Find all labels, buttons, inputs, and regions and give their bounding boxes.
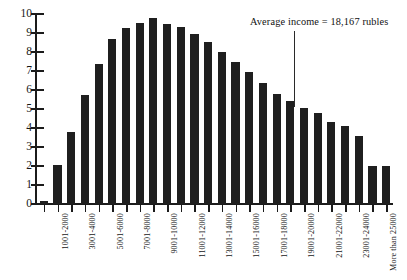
x-axis-tick — [126, 205, 128, 212]
y-axis-tick-label: 1 — [10, 179, 32, 191]
bar — [163, 24, 171, 205]
x-axis-tick-label: 1001-2000 — [61, 213, 70, 249]
bar — [382, 166, 390, 204]
x-axis-tick — [153, 205, 155, 212]
x-axis-tick — [194, 205, 196, 212]
x-axis-tick-label: More than 25000 — [389, 213, 398, 271]
x-axis-tick — [222, 205, 224, 212]
x-axis-tick — [277, 205, 279, 212]
y-axis-tick-label: 0 — [10, 198, 32, 210]
x-axis-tick — [263, 205, 265, 212]
bar — [368, 166, 376, 204]
bar — [231, 62, 239, 204]
x-axis-tick — [112, 205, 114, 212]
bar — [341, 126, 349, 204]
x-axis-tick-label: 3001-4000 — [88, 213, 97, 249]
bar — [136, 23, 144, 204]
x-axis-tick — [359, 205, 361, 212]
x-axis-tick-label: 9001-10000 — [170, 213, 179, 254]
bar — [204, 42, 212, 204]
bar — [108, 39, 116, 204]
x-axis-tick — [85, 205, 87, 212]
bar — [177, 27, 185, 204]
average-income-pointer-line — [294, 31, 295, 107]
bar — [95, 64, 103, 204]
bar-series — [37, 13, 393, 204]
x-axis-tick-label: 13001-14000 — [225, 213, 234, 258]
x-axis-tick — [290, 205, 292, 212]
bar — [245, 72, 253, 204]
bar — [327, 122, 335, 204]
y-axis-tick-label: 10 — [10, 8, 32, 20]
bar — [355, 136, 363, 204]
bar — [259, 83, 267, 204]
x-axis-tick — [345, 205, 347, 212]
bar — [149, 18, 157, 204]
chart-figure: 012345678910 1001-20003001-40005001-6000… — [0, 0, 407, 280]
bar — [273, 94, 281, 204]
bar — [67, 132, 75, 204]
x-axis-tick — [44, 205, 46, 212]
bar — [190, 34, 198, 204]
y-axis-tick-label: 8 — [10, 46, 32, 58]
x-axis-tick-label: 21001-22000 — [335, 213, 344, 258]
x-axis-tick-label: 17001-18000 — [280, 213, 289, 258]
bar — [40, 201, 48, 204]
x-axis-tick — [331, 205, 333, 212]
x-axis-tick — [386, 205, 388, 212]
y-axis-tick-label: 4 — [10, 122, 32, 134]
bar — [314, 113, 322, 204]
bar — [286, 101, 294, 204]
y-axis-tick-label: 5 — [10, 103, 32, 115]
bar — [300, 108, 308, 204]
x-axis-tick — [208, 205, 210, 212]
y-axis-tick-label: 7 — [10, 65, 32, 77]
bar — [218, 52, 226, 204]
x-axis-tick — [249, 205, 251, 212]
x-axis-tick-label: 7001-8000 — [143, 213, 152, 249]
bar — [53, 165, 61, 204]
x-axis-tick — [181, 205, 183, 212]
x-axis-tick-label: 11001-12000 — [198, 213, 207, 257]
x-axis-tick — [99, 205, 101, 212]
x-axis-tick — [167, 205, 169, 212]
x-axis-tick-label: 5001-6000 — [116, 213, 125, 249]
x-axis-tick — [236, 205, 238, 212]
y-axis-tick-label: 9 — [10, 27, 32, 39]
y-axis-tick-label: 3 — [10, 141, 32, 153]
y-axis-labels: 012345678910 — [6, 0, 32, 280]
bar — [81, 95, 89, 204]
x-axis-tick — [140, 205, 142, 212]
average-income-annotation: Average income = 18,167 rubles — [250, 16, 389, 27]
y-axis-tick-label: 6 — [10, 84, 32, 96]
x-axis-labels: 1001-20003001-40005001-60007001-80009001… — [37, 213, 393, 279]
x-axis-tick-label: 19001-20000 — [307, 213, 316, 258]
x-axis-tick — [304, 205, 306, 212]
x-axis-tick-label: 23001-24000 — [362, 213, 371, 258]
x-axis-tick — [372, 205, 374, 212]
x-axis-tick — [71, 205, 73, 212]
bar — [122, 28, 130, 204]
x-axis-ticks — [37, 205, 393, 212]
x-axis-tick — [58, 205, 60, 212]
y-axis-tick-label: 2 — [10, 160, 32, 172]
x-axis-tick-label: 15001-16000 — [252, 213, 261, 258]
x-axis-tick — [318, 205, 320, 212]
